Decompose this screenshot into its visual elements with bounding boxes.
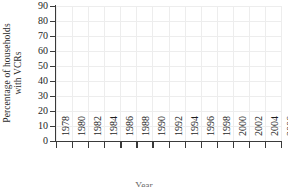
x-tick-mark [120, 142, 121, 148]
x-tick-mark [217, 142, 218, 148]
y-tick-label: 70 [28, 30, 48, 41]
x-tick-label: 1982 [92, 116, 103, 150]
x-tick-label: 1998 [221, 116, 232, 150]
y-tick-label: 0 [28, 135, 48, 146]
x-tick-label: 2000 [237, 116, 248, 150]
y-axis-title-line1: Percentage of households [2, 23, 12, 122]
x-tick-mark [201, 142, 202, 148]
x-tick-label: 1978 [60, 116, 71, 150]
x-tick-mark [72, 142, 73, 148]
x-tick-label: 1984 [108, 116, 119, 150]
x-tick-mark [56, 142, 57, 148]
x-tick-mark [88, 142, 89, 148]
x-tick-label: 1986 [124, 116, 135, 150]
y-tick-label: 80 [28, 15, 48, 26]
gridline-vertical [249, 6, 250, 141]
gridline-vertical [136, 6, 137, 141]
chart-page: Percentage of households with VCRs 01020… [0, 0, 288, 187]
gridline-vertical [185, 6, 186, 141]
gridline-vertical [281, 6, 282, 141]
y-axis-title: Percentage of households with VCRs [0, 0, 26, 145]
y-tick-label: 50 [28, 60, 48, 71]
x-tick-mark [185, 142, 186, 148]
x-tick-label: 1990 [156, 116, 167, 150]
y-tick-label: 10 [28, 120, 48, 131]
y-tick-label: 30 [28, 90, 48, 101]
y-tick-mark [50, 36, 56, 37]
x-tick-label: 2002 [253, 116, 264, 150]
x-tick-mark [169, 142, 170, 148]
y-axis-line [55, 5, 56, 142]
x-tick-label: 1992 [173, 116, 184, 150]
y-tick-mark [50, 96, 56, 97]
x-axis-title: Year [0, 181, 288, 187]
y-tick-label: 60 [28, 45, 48, 56]
gridline-horizontal [56, 96, 281, 97]
y-tick-label: 20 [28, 105, 48, 116]
y-tick-mark [50, 111, 56, 112]
gridline-horizontal [56, 66, 281, 67]
x-tick-mark [136, 142, 137, 148]
y-tick-label: 90 [28, 0, 48, 11]
x-tick-mark [281, 142, 282, 148]
x-tick-mark [152, 142, 153, 148]
gridline-vertical [265, 6, 266, 141]
y-tick-mark [50, 81, 56, 82]
gridline-vertical [152, 6, 153, 141]
y-tick-mark [50, 51, 56, 52]
gridline-horizontal [56, 21, 281, 22]
gridline-vertical [72, 6, 73, 141]
gridline-vertical [104, 6, 105, 141]
gridline-horizontal [56, 51, 281, 52]
x-tick-label: 2004 [269, 116, 280, 150]
gridline-vertical [233, 6, 234, 141]
gridline-vertical [217, 6, 218, 141]
gridline-vertical [169, 6, 170, 141]
gridline-vertical [88, 6, 89, 141]
gridline-horizontal [56, 36, 281, 37]
gridline-vertical [201, 6, 202, 141]
x-tick-mark [104, 142, 105, 148]
gridline-vertical [120, 6, 121, 141]
x-tick-label: 1996 [205, 116, 216, 150]
x-tick-label: 2006 [285, 116, 288, 150]
gridline-horizontal [56, 81, 281, 82]
y-tick-mark [50, 6, 56, 7]
x-tick-label: 1994 [189, 116, 200, 150]
gridline-horizontal [56, 6, 281, 7]
x-tick-label: 1980 [76, 116, 87, 150]
y-tick-mark [50, 21, 56, 22]
x-tick-mark [265, 142, 266, 148]
x-tick-mark [249, 142, 250, 148]
x-tick-label: 1988 [140, 116, 151, 150]
y-axis-title-line2: with VCRs [13, 23, 24, 122]
y-tick-label: 40 [28, 75, 48, 86]
gridline-horizontal [56, 111, 281, 112]
y-tick-mark [50, 66, 56, 67]
y-axis-title-text: Percentage of households with VCRs [2, 23, 24, 122]
x-tick-mark [233, 142, 234, 148]
y-tick-mark [50, 126, 56, 127]
